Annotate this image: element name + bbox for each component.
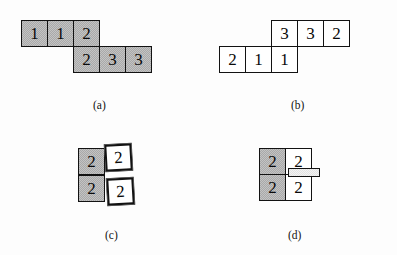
panel-d-cell-r1c0: 2 xyxy=(259,174,286,201)
cell-value: 1 xyxy=(30,25,39,42)
panel-a-cell-r0c1: 1 xyxy=(47,20,74,47)
panel-b-cell-r1c2: 1 xyxy=(271,46,298,73)
panel-b-cell-r0c2: 3 xyxy=(271,20,298,47)
cell-value: 3 xyxy=(134,51,143,68)
cell-value: 2 xyxy=(82,25,91,42)
cell-value: 2 xyxy=(268,153,277,170)
panel-b-cell-r0c3: 3 xyxy=(297,20,324,47)
cell-value: 1 xyxy=(280,51,289,68)
panel-a-cell-r1c2: 2 xyxy=(73,46,100,73)
panel-d-cell-r0c0: 2 xyxy=(259,148,286,175)
cell-value: 2 xyxy=(87,180,96,197)
panel-a-caption: (a) xyxy=(93,99,106,111)
figure-panels-abcd: 1 1 2 2 3 3 (a) 3 3 2 2 1 1 (b) 2 2 2 2 … xyxy=(0,0,397,255)
panel-d-caption: (d) xyxy=(288,229,301,241)
panel-b-cell-r1c0: 2 xyxy=(219,46,246,73)
panel-c-cell-r0c1-lifted: 2 xyxy=(104,143,132,171)
cell-value: 2 xyxy=(87,153,96,170)
panel-b-caption: (b) xyxy=(291,99,304,111)
panel-a-cell-r0c0: 1 xyxy=(21,20,48,47)
cell-value: 3 xyxy=(108,51,117,68)
cell-value: 2 xyxy=(332,25,341,42)
panel-a-cell-r1c4: 3 xyxy=(125,46,152,73)
cell-value: 1 xyxy=(254,51,263,68)
panel-b-cell-r0c4: 2 xyxy=(323,20,350,47)
panel-d-slide-bar-icon xyxy=(288,168,320,177)
cell-value: 2 xyxy=(268,179,277,196)
panel-b-cell-r1c1: 1 xyxy=(245,46,272,73)
cell-value: 2 xyxy=(294,179,303,196)
cell-value: 3 xyxy=(280,25,289,42)
panel-d-cell-r1c1: 2 xyxy=(285,174,312,201)
cell-value: 2 xyxy=(82,51,91,68)
panel-c-cell-r0c0: 2 xyxy=(78,148,105,175)
panel-c-cell-r1c1-lifted: 2 xyxy=(106,177,134,205)
panel-a-cell-r1c3: 3 xyxy=(99,46,126,73)
panel-c-cell-r1c0: 2 xyxy=(78,175,105,202)
cell-value: 3 xyxy=(306,25,315,42)
panel-c-caption: (c) xyxy=(105,229,118,241)
cell-value: 2 xyxy=(228,51,237,68)
cell-value: 1 xyxy=(56,25,65,42)
panel-a-cell-r0c2: 2 xyxy=(73,20,100,47)
cell-value: 2 xyxy=(116,183,125,200)
cell-value: 2 xyxy=(114,149,123,166)
